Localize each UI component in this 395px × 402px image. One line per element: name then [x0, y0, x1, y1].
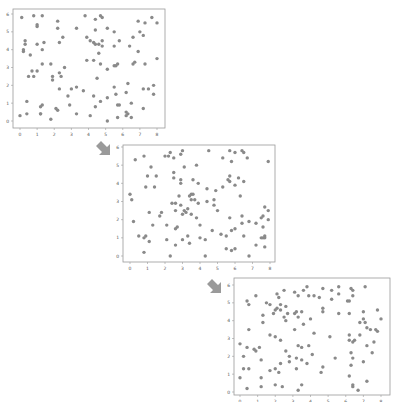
data-point — [23, 43, 26, 46]
data-point — [238, 376, 241, 379]
data-point — [49, 118, 52, 121]
data-point — [153, 185, 156, 188]
data-point — [348, 312, 351, 315]
data-point — [348, 333, 351, 336]
y-tick-label: 5 — [6, 29, 9, 34]
y-tick-label: 2 — [227, 354, 230, 359]
data-point — [349, 351, 352, 354]
data-point — [144, 185, 147, 188]
data-point — [94, 105, 97, 108]
y-tick-label: 4 — [116, 181, 119, 186]
data-point — [25, 100, 28, 103]
data-point — [254, 243, 257, 246]
data-point — [144, 234, 147, 237]
data-point — [293, 328, 296, 331]
data-point — [92, 59, 95, 62]
data-point — [296, 315, 299, 318]
data-point — [300, 358, 303, 361]
data-point — [376, 308, 379, 311]
data-point — [186, 207, 189, 210]
data-point — [181, 149, 184, 152]
data-point — [228, 149, 231, 152]
data-point — [136, 19, 139, 22]
data-point — [351, 340, 354, 343]
data-point — [259, 385, 262, 388]
data-point — [240, 214, 243, 217]
data-point — [101, 39, 104, 42]
data-point — [337, 312, 340, 315]
data-point — [155, 21, 158, 24]
y-tick-label: 0 — [227, 390, 230, 395]
data-point — [321, 306, 324, 309]
data-point — [116, 116, 119, 119]
data-point — [261, 321, 264, 324]
data-point — [101, 16, 104, 19]
data-point — [174, 209, 177, 212]
data-point — [233, 151, 236, 154]
data-point — [230, 229, 233, 232]
data-point — [221, 156, 224, 159]
data-point — [351, 289, 354, 292]
data-point — [83, 14, 86, 17]
data-point — [152, 84, 155, 87]
y-tick-label: 3 — [227, 336, 230, 341]
data-point — [268, 303, 271, 306]
scatter-plot-2-canvas: 0123456780123456 — [110, 137, 285, 275]
data-point — [228, 180, 231, 183]
data-point — [284, 349, 287, 352]
data-point — [188, 242, 191, 245]
data-point — [351, 356, 354, 359]
data-point — [205, 200, 208, 203]
data-point — [198, 236, 201, 239]
data-point — [247, 328, 250, 331]
data-point — [58, 41, 61, 44]
y-tick-label: 1 — [6, 101, 9, 106]
data-point — [230, 249, 233, 252]
data-point — [261, 225, 264, 228]
data-point — [174, 243, 177, 246]
data-point — [214, 189, 217, 192]
data-point — [150, 16, 153, 19]
data-point — [126, 112, 129, 115]
data-point — [179, 153, 182, 156]
data-point — [190, 198, 193, 201]
data-point — [282, 289, 285, 292]
scatter-plot-3: 0123456780123456 — [221, 271, 395, 402]
data-point — [112, 30, 115, 33]
data-point — [274, 367, 277, 370]
data-point — [358, 321, 361, 324]
data-point — [296, 389, 299, 392]
data-point — [307, 344, 310, 347]
data-point — [97, 52, 100, 55]
data-point — [61, 35, 64, 38]
data-point — [228, 216, 231, 219]
data-point — [263, 205, 266, 208]
data-point — [56, 27, 59, 30]
data-point — [362, 317, 365, 320]
x-tick-label: 3 — [181, 266, 184, 271]
data-point — [75, 112, 78, 115]
data-point — [307, 294, 310, 297]
data-point — [101, 44, 104, 47]
data-point — [245, 387, 248, 390]
data-point — [284, 319, 287, 322]
data-point — [133, 60, 136, 63]
data-point — [321, 287, 324, 290]
data-point — [261, 314, 264, 317]
data-point — [75, 27, 78, 30]
data-point — [70, 87, 73, 90]
data-point — [267, 218, 270, 221]
data-point — [181, 238, 184, 241]
data-point — [288, 360, 291, 363]
data-point — [106, 27, 109, 30]
data-point — [330, 298, 333, 301]
data-point — [148, 211, 151, 214]
data-point — [330, 289, 333, 292]
x-tick-label: 2 — [53, 132, 56, 137]
data-point — [181, 213, 184, 216]
data-point — [286, 312, 289, 315]
data-point — [41, 62, 44, 65]
data-point — [143, 21, 146, 24]
data-point — [118, 39, 121, 42]
data-point — [56, 109, 59, 112]
